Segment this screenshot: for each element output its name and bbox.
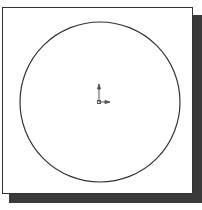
origin-icon (98, 84, 111, 104)
sketch-canvas (0, 0, 202, 210)
